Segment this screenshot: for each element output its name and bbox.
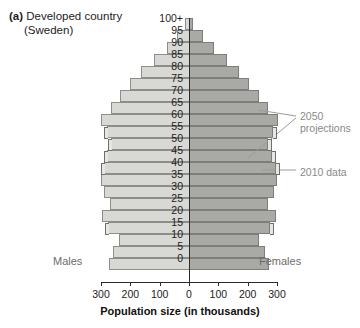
female-bar (189, 234, 259, 246)
age-label: 75 (171, 72, 183, 84)
female-bar (189, 54, 227, 66)
age-label: 55 (171, 120, 183, 132)
projection-marker-male (108, 139, 112, 151)
female-bar (189, 186, 274, 198)
projection-marker-female (268, 139, 272, 151)
female-bar (189, 150, 272, 162)
age-label: 30 (171, 180, 183, 192)
x-tick (277, 282, 278, 286)
zero-axis-line (189, 18, 190, 282)
projection-marker-male (104, 151, 108, 163)
age-label: 50 (171, 132, 183, 144)
female-bar (189, 222, 270, 234)
female-bar (189, 162, 276, 174)
age-label: 20 (171, 204, 183, 216)
x-tick-label: 200 (233, 288, 263, 300)
age-label: 70 (171, 84, 183, 96)
projection-marker-female (276, 163, 280, 175)
female-bar (189, 210, 276, 222)
female-bar (189, 258, 269, 270)
age-label: 15 (171, 216, 183, 228)
x-tick-label: 100 (203, 288, 233, 300)
age-label: 45 (171, 144, 183, 156)
panel-tag: (a) (9, 10, 23, 22)
female-bar (189, 174, 277, 186)
x-tick-label: 200 (115, 288, 145, 300)
female-bar (189, 114, 278, 126)
projection-marker-male (101, 163, 105, 175)
x-tick (101, 282, 102, 286)
x-tick (189, 282, 190, 286)
x-tick-label: 300 (86, 288, 116, 300)
age-label: 100+ (159, 12, 183, 24)
x-tick (160, 282, 161, 286)
age-label: 5 (177, 240, 183, 252)
projection-marker-male (105, 223, 109, 235)
x-axis-title: Population size (in thousands) (0, 305, 360, 317)
annotation-2050-projections: 2050 projections (300, 110, 358, 134)
population-pyramid-figure: (a) Developed country (Sweden) 051015202… (0, 0, 360, 328)
age-label: 65 (171, 96, 183, 108)
female-bar (189, 42, 214, 54)
females-side-label: Females (259, 255, 301, 267)
female-bar (189, 30, 203, 42)
annotation-2010-data: 2010 data (300, 166, 358, 178)
female-bar (189, 126, 273, 138)
age-label: 80 (171, 60, 183, 72)
males-side-label: Males (53, 255, 82, 267)
projection-marker-female (273, 127, 277, 139)
female-bar (189, 246, 265, 258)
projection-marker-female (272, 151, 276, 163)
female-bar (189, 198, 268, 210)
projection-marker-female (270, 223, 274, 235)
x-tick-label: 100 (145, 288, 175, 300)
age-label: 25 (171, 192, 183, 204)
x-tick (248, 282, 249, 286)
age-label: 35 (171, 168, 183, 180)
age-label: 60 (171, 108, 183, 120)
female-bar (189, 90, 259, 102)
x-tick (130, 282, 131, 286)
female-bar (189, 78, 249, 90)
age-label: 85 (171, 48, 183, 60)
projection-marker-male (104, 127, 108, 139)
x-tick-label: 0 (174, 288, 204, 300)
female-bar (189, 102, 268, 114)
female-bar (189, 66, 239, 78)
age-label: 40 (171, 156, 183, 168)
x-tick (218, 282, 219, 286)
age-label: 95 (171, 24, 183, 36)
age-label: 90 (171, 36, 183, 48)
age-label: 10 (171, 228, 183, 240)
x-tick-label: 300 (262, 288, 292, 300)
female-bar (189, 138, 268, 150)
age-label: 0 (177, 252, 183, 264)
pyramid-plot-area (101, 18, 277, 282)
